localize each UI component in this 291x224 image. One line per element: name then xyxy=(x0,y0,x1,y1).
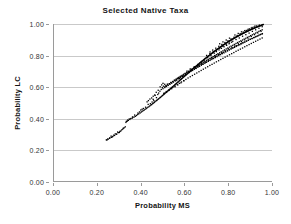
x-tick-label: 0.60 xyxy=(177,189,191,196)
x-tick-mark xyxy=(53,183,54,186)
x-tick-label: 1.00 xyxy=(265,189,279,196)
x-tick-mark xyxy=(184,183,185,186)
x-axis-title: Probability MS xyxy=(53,201,272,210)
y-tick-label: 0.80 xyxy=(30,52,44,59)
y-tick-label: 0.20 xyxy=(30,147,44,154)
y-tick-label: 0.60 xyxy=(30,84,44,91)
y-tick-label: 1.00 xyxy=(30,21,44,28)
y-tick-mark xyxy=(46,150,49,151)
x-tick-mark xyxy=(141,183,142,186)
x-tick-mark xyxy=(272,183,273,186)
x-axis-ticks: 0.000.200.400.600.801.00 xyxy=(53,183,272,197)
y-tick-mark xyxy=(46,24,49,25)
series-taxa xyxy=(106,24,264,141)
x-tick-mark xyxy=(97,183,98,186)
y-tick-mark xyxy=(46,182,49,183)
x-tick-label: 0.40 xyxy=(133,189,147,196)
y-tick-label: 0.40 xyxy=(30,115,44,122)
x-tick-label: 0.20 xyxy=(90,189,104,196)
x-tick-label: 0.80 xyxy=(221,189,235,196)
y-tick-label: 0.00 xyxy=(30,179,44,186)
scatter-points xyxy=(54,24,272,181)
x-tick-mark xyxy=(228,183,229,186)
chart-figure: Selected Native Taxa Probability LC 0.00… xyxy=(0,0,291,224)
y-tick-mark xyxy=(46,56,49,57)
y-axis-ticks: 0.000.200.400.600.801.00 xyxy=(0,24,49,182)
y-tick-mark xyxy=(46,87,49,88)
y-tick-mark xyxy=(46,119,49,120)
chart-title: Selected Native Taxa xyxy=(0,6,291,15)
plot-area xyxy=(53,24,272,182)
x-tick-label: 0.00 xyxy=(46,189,60,196)
